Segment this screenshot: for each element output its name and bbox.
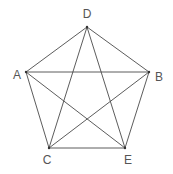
edge-ae [26,72,125,148]
edge-be [125,72,149,148]
vertex-label-e: E [124,153,132,167]
vertex-b [148,71,150,73]
vertex-c [48,147,50,149]
edges [26,27,149,148]
edge-dc [49,27,87,148]
vertex-label-a: A [13,68,21,82]
vertex-e [124,147,126,149]
vertex-label-d: D [83,7,92,21]
edge-ac [26,72,49,148]
edge-da [26,27,87,72]
edge-de [87,27,125,148]
vertex-a [25,71,27,73]
vertex-label-b: B [155,70,163,84]
edge-db [87,27,149,72]
edge-bc [49,72,149,148]
vertex-d [86,26,88,28]
vertex-label-c: C [43,153,52,167]
pentagon-diagram: D A B C E [0,0,173,174]
